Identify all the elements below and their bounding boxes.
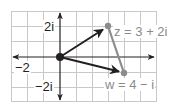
- z-label-text: z = 3 + 2i: [114, 24, 167, 39]
- z-label: z = 3 + 2i: [113, 25, 168, 38]
- imag-neg-label: −2i: [34, 80, 54, 93]
- real-neg-label: −2: [14, 61, 31, 74]
- real-neg-text: −2: [15, 60, 30, 75]
- imag-neg-text: −2i: [35, 79, 53, 94]
- origin-point: [56, 53, 64, 61]
- vector-w: [60, 57, 119, 72]
- point-z: [105, 23, 111, 29]
- complex-plane: [0, 0, 187, 108]
- imag-pos-label: 2i: [43, 20, 55, 33]
- point-w: [121, 70, 127, 76]
- imag-pos-text: 2i: [44, 19, 54, 34]
- w-label-text: w = 4 − i: [105, 77, 154, 92]
- vector-z: [60, 30, 103, 58]
- w-label: w = 4 − i: [104, 78, 155, 91]
